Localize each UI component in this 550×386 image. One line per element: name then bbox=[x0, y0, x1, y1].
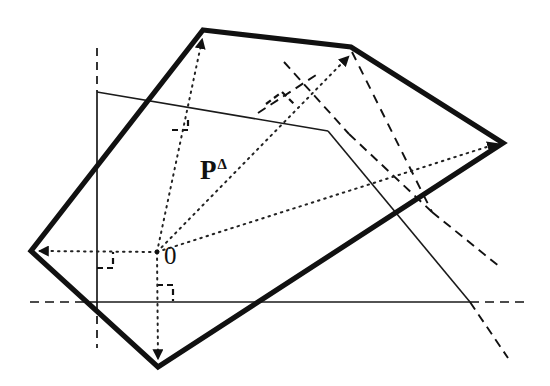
geometry-figure: 0 PΔ bbox=[0, 0, 550, 386]
polytope-label-base: P bbox=[200, 155, 217, 185]
figure-canvas bbox=[0, 0, 550, 386]
support-line-right bbox=[328, 131, 470, 302]
polytope-outline bbox=[31, 30, 503, 367]
dashed-normal-upper-left bbox=[284, 62, 349, 134]
dashed-tail-bottom bbox=[470, 302, 508, 358]
dashed-normal-vertical bbox=[352, 52, 432, 212]
right-angle-mark-origin-left bbox=[97, 252, 113, 268]
origin-label: 0 bbox=[164, 243, 177, 268]
ray-to-up-right-vertex bbox=[157, 57, 348, 252]
polytope-label: PΔ bbox=[200, 157, 227, 184]
dashed-normal-right bbox=[349, 134, 432, 212]
dashed-tail-right bbox=[432, 212, 500, 267]
dashed-normal-crossing bbox=[258, 75, 316, 113]
ray-to-up-left-vertex bbox=[157, 40, 202, 252]
right-angle-mark-upper bbox=[266, 92, 294, 104]
origin-point bbox=[155, 250, 160, 255]
right-angle-mark-origin-below bbox=[157, 285, 173, 301]
polytope-label-superscript: Δ bbox=[218, 156, 227, 172]
ray-to-left-vertex bbox=[40, 251, 157, 252]
ray-to-down-vertex bbox=[157, 252, 158, 358]
